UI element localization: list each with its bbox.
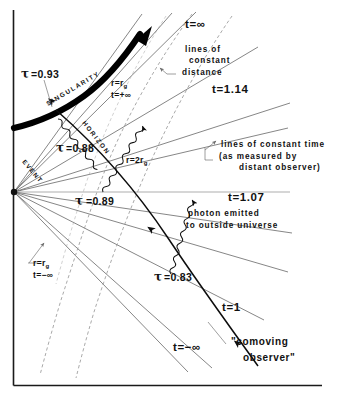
label-r-rg-minus: r=rg t=−∞ [33, 258, 53, 280]
svg-text:lines of constant time: lines of constant time [221, 140, 325, 149]
label-r-2rg: r=2rg [126, 155, 148, 166]
svg-text:=0.93: =0.93 [31, 68, 59, 80]
worldline-arrow-mid [145, 224, 155, 234]
label-lines-constant-distance: lines of constant distance [182, 45, 230, 77]
label-t-minus-infinity-bottom: t=−∞ [173, 341, 201, 353]
ray-t-infinity [14, 12, 196, 192]
svg-text:r=rg: r=rg [111, 78, 128, 89]
label-tau-088: τ =0.88 [56, 141, 94, 155]
leader-const-distance [160, 68, 176, 74]
svg-text:photon emitted: photon emitted [188, 209, 260, 218]
svg-text:r=rg: r=rg [33, 258, 50, 269]
label-tau-083: τ =0.83 [154, 270, 192, 284]
label-t-1: t=1 [222, 301, 241, 313]
label-tau-089: τ =0.89 [75, 194, 114, 208]
axis-frame [14, 10, 323, 386]
label-lines-constant-time: lines of constant time (as measured by d… [219, 140, 325, 172]
label-comoving-observer: "comoving observer" [231, 336, 295, 363]
label-t-infinity: t=∞ [185, 18, 206, 30]
svg-text:τ: τ [75, 194, 83, 208]
comoving-observer-worldline [46, 96, 258, 366]
svg-text:observer": observer" [243, 352, 295, 363]
svg-text:(as measured by: (as measured by [219, 152, 297, 161]
svg-text:=0.89: =0.89 [86, 195, 114, 207]
svg-text:τ: τ [21, 67, 29, 81]
label-t-114: t=1.14 [212, 83, 249, 95]
svg-text:=0.83: =0.83 [164, 271, 192, 283]
leader-comoving [208, 322, 226, 344]
svg-text:"comoving: "comoving [231, 336, 288, 347]
svg-text:t=+∞: t=+∞ [111, 90, 131, 100]
diagram-canvas: t=∞ lines of constant distance r=rg t=+∞… [0, 0, 345, 406]
svg-text:τ: τ [56, 141, 64, 155]
svg-text:lines of: lines of [185, 45, 221, 54]
label-tau-093: τ =0.93 [21, 67, 59, 81]
spacetime-diagram-figure: t=∞ lines of constant distance r=rg t=+∞… [0, 0, 345, 406]
label-t-107: t=1.07 [228, 191, 265, 203]
svg-text:=0.88: =0.88 [66, 142, 94, 154]
svg-text:to outside universe: to outside universe [186, 221, 278, 230]
svg-text:distance: distance [182, 68, 222, 77]
svg-text:distant observer): distant observer) [239, 163, 321, 172]
svg-text:t=−∞: t=−∞ [33, 270, 53, 280]
origin-event-dot [11, 189, 17, 195]
svg-text:constant: constant [189, 56, 230, 65]
label-r-rg-plus: r=rg t=+∞ [111, 78, 131, 100]
leader-const-time-a [205, 148, 213, 160]
svg-text:τ: τ [154, 270, 162, 284]
